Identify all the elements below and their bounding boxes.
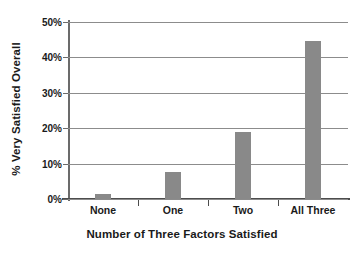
y-tick-mark (63, 57, 68, 58)
gridline (68, 22, 348, 23)
y-tick-label: 50% (22, 17, 62, 28)
bar-chart: % Very Satisfied Overall Number of Three… (0, 0, 364, 255)
x-category-label: All Three (278, 204, 348, 216)
bar (165, 172, 181, 199)
y-tick-label: 20% (22, 123, 62, 134)
y-tick-label: 40% (22, 52, 62, 63)
bar (305, 41, 321, 199)
y-tick-label: 30% (22, 87, 62, 98)
x-axis-title: Number of Three Factors Satisfied (0, 228, 364, 240)
y-tick-mark (63, 199, 68, 200)
x-category-label: None (68, 204, 138, 216)
y-tick-mark (63, 128, 68, 129)
y-tick-label: 10% (22, 158, 62, 169)
bar (235, 132, 251, 199)
x-category-label: One (138, 204, 208, 216)
y-tick-mark (63, 22, 68, 23)
y-tick-mark (63, 93, 68, 94)
y-tick-label: 0% (22, 194, 62, 205)
plot-area (68, 22, 348, 199)
y-tick-mark (63, 164, 68, 165)
bar (95, 194, 111, 199)
y-axis-title: % Very Satisfied Overall (10, 9, 22, 209)
x-category-label: Two (208, 204, 278, 216)
